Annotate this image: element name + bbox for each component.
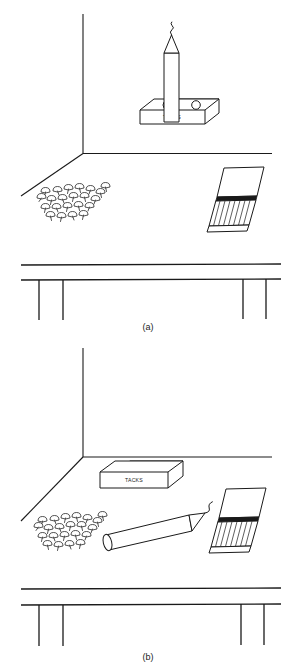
tack-in-box-right-a [192,101,201,110]
panel-a: TACKS [21,14,281,332]
candle-wick-b [205,502,212,513]
tack-box-body-b [100,461,183,488]
wall-diagonal-edge-b [21,457,83,521]
candle-b [102,502,213,552]
table-b [21,588,281,646]
candle-tip-b [189,513,205,531]
tack-box-b: TACKS [100,461,183,488]
table-top-edge-a [21,264,281,265]
candle-a [164,22,179,122]
wall-diagonal-edge-a [21,154,83,197]
table-top-edge-b [21,588,281,589]
matchbook-bottom-flap-b [209,546,251,553]
candle-wick-a [170,22,173,35]
matchbook-bottom-flap-a [207,225,249,232]
matchbook-cover-a [217,167,264,197]
candle-body-b [106,515,192,550]
duncker-candle-problem-figure: TACKS [0,0,294,670]
tack-pile-a [37,183,110,222]
matchbook-b [209,488,266,553]
candle-tip-a [164,35,179,53]
panel-caption-b: (b) [143,652,154,662]
matchbook-cover-b [219,488,266,518]
panel-caption-a: (a) [143,322,154,332]
tack-box-label-b: TACKS [125,477,143,483]
table-a [21,264,281,320]
candle-body-a [164,53,179,122]
tack-pile-b [34,512,107,551]
panel-b: TACKS [21,348,281,662]
table-front-edge-a [21,279,281,280]
matchbook-a [207,167,264,232]
table-front-edge-b [21,604,281,605]
